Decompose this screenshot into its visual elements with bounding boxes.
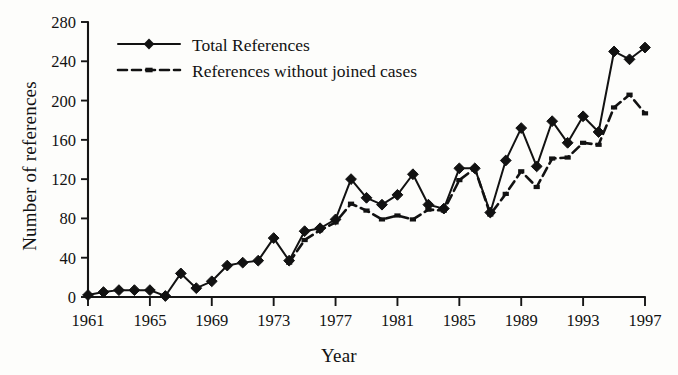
y-tick-label: 200 [51, 92, 76, 111]
data-point-marker [317, 228, 323, 232]
y-tick-label: 120 [51, 170, 76, 189]
y-tick-label: 160 [51, 131, 76, 150]
data-point-marker [472, 166, 478, 170]
chart-figure: 04080120160200240280 1961196519691973197… [0, 0, 678, 375]
data-point-marker [144, 285, 155, 296]
data-point-marker [549, 156, 555, 160]
data-point-marker [377, 199, 388, 210]
data-point-marker [516, 123, 527, 134]
x-tick-label: 1981 [381, 311, 414, 330]
data-point-marker [410, 217, 416, 221]
y-axis: 04080120160200240280 [51, 13, 88, 307]
x-tick-label: 1973 [257, 311, 290, 330]
data-point-marker [302, 238, 308, 242]
y-tick-label: 0 [68, 288, 76, 307]
data-series-group [83, 42, 651, 301]
data-point-marker [503, 192, 509, 196]
legend-label: References without joined cases [192, 61, 417, 81]
data-point-marker [129, 285, 140, 296]
data-point-marker [595, 143, 601, 147]
data-point-marker [441, 208, 447, 212]
data-point-marker [425, 207, 431, 211]
data-point-marker [534, 185, 540, 189]
data-point-marker [611, 105, 617, 109]
data-point-marker [363, 208, 369, 212]
data-point-marker [83, 290, 94, 301]
legend-marker-sample [145, 68, 152, 73]
chart-legend: Total ReferencesReferences without joine… [118, 35, 417, 81]
data-point-marker [348, 202, 354, 206]
data-point-marker [456, 178, 462, 182]
series-line [289, 95, 645, 263]
x-axis-title: Year [0, 345, 678, 367]
x-tick-label: 1969 [195, 311, 228, 330]
data-point-marker [286, 261, 292, 265]
data-point-marker [237, 257, 248, 268]
data-point-marker [642, 111, 648, 115]
y-tick-label: 240 [51, 52, 76, 71]
legend-label: Total References [192, 35, 310, 55]
data-point-marker [98, 287, 109, 298]
data-point-marker [580, 141, 586, 145]
x-tick-label: 1961 [72, 311, 105, 330]
data-point-marker [299, 226, 310, 237]
x-axis: 1961196519691973197719811985198919931997 [72, 297, 662, 330]
data-point-marker [565, 155, 571, 159]
x-tick-label: 1993 [567, 311, 600, 330]
data-point-marker [500, 155, 511, 166]
data-point-marker [379, 217, 385, 221]
y-tick-label: 80 [60, 209, 77, 228]
data-point-marker [114, 285, 125, 296]
data-point-marker [394, 213, 400, 217]
x-tick-label: 1965 [133, 311, 166, 330]
data-point-marker [332, 220, 338, 224]
x-tick-label: 1997 [629, 311, 662, 330]
data-point-marker [454, 163, 465, 174]
x-tick-label: 1977 [319, 311, 352, 330]
x-tick-label: 1985 [443, 311, 476, 330]
series-line [88, 48, 645, 296]
y-axis-title: Number of references [19, 56, 41, 276]
y-tick-label: 280 [51, 13, 76, 32]
x-tick-label: 1989 [505, 311, 538, 330]
data-point-marker [626, 93, 632, 97]
data-point-marker [518, 169, 524, 173]
data-point-marker [609, 46, 620, 57]
chart-plot-area: 04080120160200240280 1961196519691973197… [0, 0, 678, 375]
data-point-marker [531, 161, 542, 172]
legend-marker-sample [144, 39, 155, 50]
data-point-marker [487, 212, 493, 216]
y-tick-label: 40 [60, 249, 77, 268]
